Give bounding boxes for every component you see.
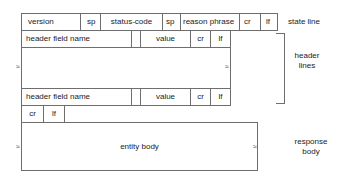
blank-line-lf: lf	[43, 105, 65, 123]
sp-field-2: sp	[162, 13, 181, 31]
header-lines-label-line2: lines	[287, 61, 327, 71]
header-lf-first: lf	[210, 30, 231, 48]
header-value-first: value	[140, 30, 191, 48]
response-body-label-line2: body	[288, 147, 334, 157]
response-body-label-line1: response	[288, 137, 334, 147]
entity-continuation-mark-right: ≈	[253, 143, 257, 150]
header-cr-first: cr	[190, 30, 211, 48]
header-lines-label-line1: header	[287, 51, 327, 61]
entity-body-area: entity body	[21, 122, 258, 171]
cr-field: cr	[239, 13, 261, 31]
header-lf-last: lf	[210, 88, 231, 106]
continuation-mark-right: ≈	[225, 63, 229, 70]
entity-body-text: entity body	[120, 142, 159, 151]
response-body-label: response body	[288, 137, 334, 157]
status-code-field: status-code	[100, 13, 163, 31]
header-value-last: value	[140, 88, 191, 106]
header-lines-label: header lines	[287, 51, 327, 71]
header-lines-bracket	[276, 33, 285, 104]
version-field: version	[21, 13, 81, 31]
reason-phrase-field: reason phrase	[180, 13, 240, 31]
state-line-label: state line	[288, 17, 330, 27]
lf-field: lf	[260, 13, 278, 31]
header-field-name-last: header field name	[21, 88, 132, 106]
continuation-mark-left: ≈	[16, 63, 20, 70]
sp-field-1: sp	[80, 13, 101, 31]
header-cr-last: cr	[190, 88, 211, 106]
header-field-name-first: header field name	[21, 30, 132, 48]
blank-line-cr: cr	[21, 105, 44, 123]
entity-continuation-mark-left: ≈	[16, 143, 20, 150]
